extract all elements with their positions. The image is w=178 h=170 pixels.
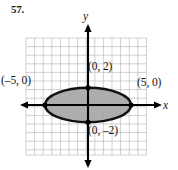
label-right-vertex: (5, 0) (137, 76, 161, 88)
axis-y-label: y (83, 10, 88, 22)
label-top-vertex: (0, 2) (88, 60, 112, 72)
vertex-point-top (85, 85, 90, 90)
label-bottom-vertex: (0, –2) (88, 124, 118, 136)
vertex-point-left (42, 102, 47, 107)
vertex-point-right (128, 102, 133, 107)
ellipse-figure: 57. (0, 0, 178, 170)
label-left-vertex: (–5, 0) (1, 74, 31, 86)
axis-x-label: x (163, 99, 168, 111)
